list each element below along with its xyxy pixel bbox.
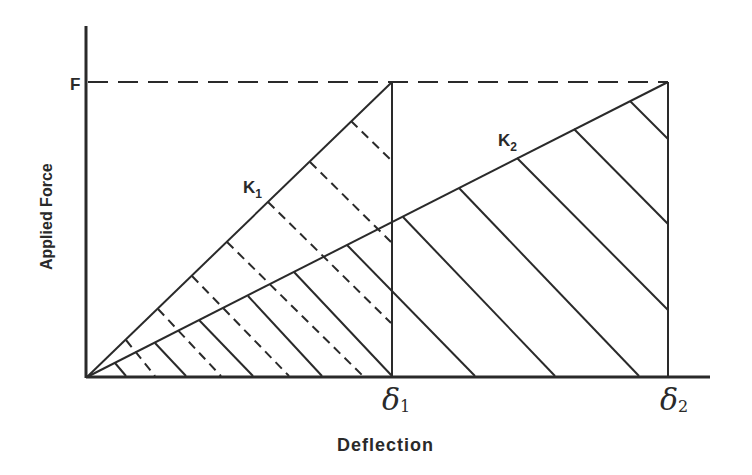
force-label: F xyxy=(70,75,80,94)
delta1-label: δ1 xyxy=(382,382,410,417)
k1-line xyxy=(87,82,392,377)
k2-label: K2 xyxy=(498,131,517,154)
y-axis-label: Applied Force xyxy=(38,163,55,270)
k1-label: K1 xyxy=(243,178,262,201)
delta2-label: δ2 xyxy=(660,382,688,417)
x-axis-label: Deflection xyxy=(337,435,434,455)
force-deflection-diagram: F K1 K2 δ1 δ2 Deflection Applied Force xyxy=(0,0,752,475)
